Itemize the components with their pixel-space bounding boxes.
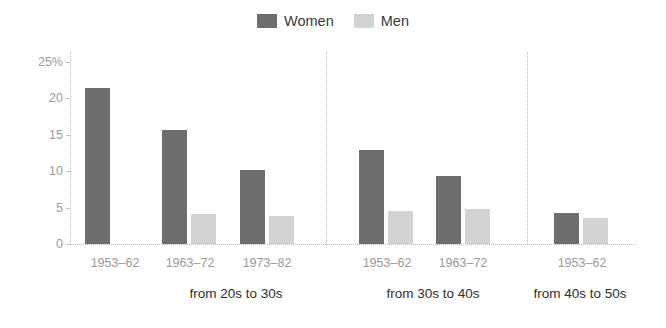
bar-women-5	[554, 213, 579, 244]
x-axis-baseline	[70, 244, 636, 246]
x-axis-label-g1-c1: 1963–72	[439, 256, 488, 270]
bar-men-1	[191, 214, 216, 244]
bar-men-2	[269, 216, 294, 244]
bar-men-5	[583, 218, 608, 244]
bar-women-1	[162, 130, 187, 244]
x-axis-label-g1-c0: 1953–62	[363, 256, 412, 270]
bar-women-4	[436, 176, 461, 244]
bar-women-3	[359, 150, 384, 244]
x-axis-label-g2-c0: 1953–62	[558, 256, 607, 270]
plot-area: 25% 20 15 10 5 0 1953–62 1963–72 1973–82…	[0, 0, 666, 328]
bar-chart: Women Men 25% 20 15 10 5 0 1953–62 1963–…	[0, 0, 666, 328]
group-label-30s-40s: from 30s to 40s	[386, 286, 479, 301]
bars-layer	[0, 0, 666, 244]
group-label-40s-50s: from 40s to 50s	[533, 286, 626, 301]
x-axis-label-g0-c0: 1953–62	[91, 256, 140, 270]
bar-men-4	[465, 209, 490, 244]
bar-women-0	[85, 88, 110, 244]
group-label-20s-30s: from 20s to 30s	[189, 286, 282, 301]
bar-women-2	[240, 170, 265, 244]
x-axis-label-g0-c2: 1973–82	[243, 256, 292, 270]
y-tick-mark-0	[66, 244, 71, 245]
bar-men-3	[388, 211, 413, 244]
x-axis-label-g0-c1: 1963–72	[166, 256, 215, 270]
